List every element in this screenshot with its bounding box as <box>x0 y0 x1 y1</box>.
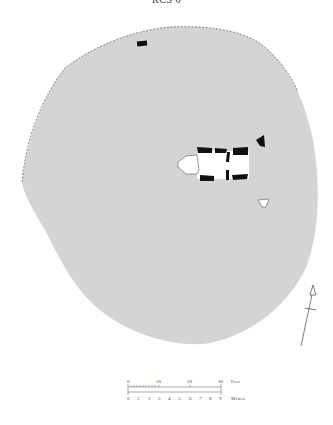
metre-tick: 1 <box>137 396 140 401</box>
stone <box>137 41 147 47</box>
metre-tick: 9 <box>219 396 222 401</box>
north-arrow-icon <box>301 285 316 346</box>
metre-tick: 0 <box>127 396 130 401</box>
metre-tick: 7 <box>199 396 202 401</box>
metre-tick: 5 <box>178 396 181 401</box>
metre-tick: 3 <box>158 396 161 401</box>
metre-tick: 2 <box>148 396 151 401</box>
metres-label: Metres <box>231 396 245 401</box>
feet-tick-10: 10 <box>156 379 162 384</box>
metre-tick: 4 <box>168 396 171 401</box>
scale-bar <box>128 384 221 395</box>
site-plan: 0 10 20 30 Feet 0 1 2 3 4 5 6 7 8 9 Metr… <box>0 0 333 425</box>
feet-tick-30: 30 <box>218 379 224 384</box>
site-area <box>22 27 318 344</box>
feet-tick-0: 0 <box>127 379 130 384</box>
feet-label: Feet <box>231 379 240 384</box>
feet-tick-20: 20 <box>187 379 193 384</box>
metre-tick: 6 <box>189 396 192 401</box>
metre-tick: 8 <box>209 396 212 401</box>
